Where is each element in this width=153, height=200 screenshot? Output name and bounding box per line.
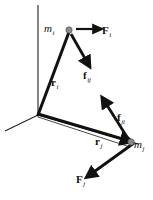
label-mass-j: mj — [134, 135, 144, 151]
vector-f-ij — [71, 34, 87, 62]
label-force-f-ji: fji — [117, 108, 125, 124]
label-force-F-i-base: F — [102, 24, 109, 36]
physics-vector-diagram: mi Fi fij ri fji rj mj Fj — [0, 0, 153, 200]
label-mass-j-base: m — [134, 138, 142, 150]
label-force-F-i-sub: i — [109, 31, 111, 39]
label-mass-i: mi — [44, 19, 54, 35]
label-force-F-i: Fi — [102, 21, 111, 37]
label-position-r-j: rj — [95, 132, 102, 148]
particle-mi-dot — [66, 27, 72, 33]
label-force-f-ij-sub: ij — [87, 76, 91, 84]
label-force-F-j-base: F — [76, 173, 83, 185]
label-force-f-ji-sub: ji — [121, 118, 125, 126]
label-force-F-j: Fj — [76, 170, 85, 186]
label-mass-i-base: m — [44, 22, 52, 34]
axis-left-line — [5, 115, 38, 131]
label-force-F-j-sub: j — [83, 180, 85, 188]
label-position-r-i: ri — [51, 73, 58, 89]
vector-r-j — [38, 114, 126, 140]
label-force-f-ij: fij — [83, 66, 91, 82]
